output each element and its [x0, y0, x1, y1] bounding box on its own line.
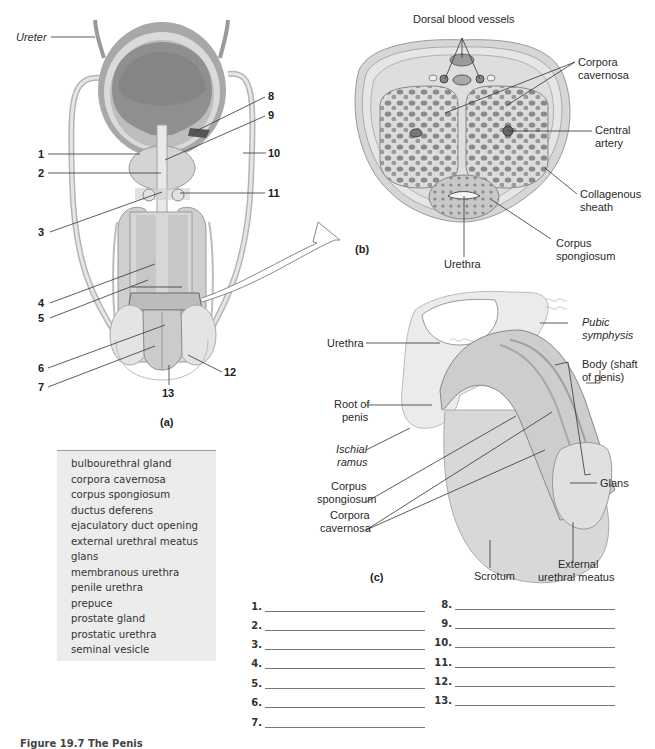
answer-field-11[interactable]: [455, 657, 615, 668]
word-bank-item: corpus spongiosum: [71, 487, 216, 503]
word-bank-item: membranous urethra: [71, 565, 216, 581]
answer-row-13[interactable]: 13.: [434, 692, 615, 706]
word-bank-item: prepuce: [71, 596, 216, 612]
word-bank-item: corpora cavernosa: [71, 472, 216, 488]
label-external-urethral-meatus-2: urethral meatus: [538, 571, 614, 584]
label-corpus-spongiosum-c-1: Corpus: [331, 480, 366, 493]
label-root-of-penis-1: Root of: [334, 398, 369, 411]
label-pubic-symphysis-1: Pubic: [582, 316, 610, 329]
label-corpora-cavernosa-c-2: cavernosa: [320, 522, 371, 535]
answer-field-9[interactable]: [455, 618, 615, 629]
answer-field-12[interactable]: [455, 676, 615, 687]
answer-row-10[interactable]: 10.: [434, 634, 615, 648]
answer-field-6[interactable]: [265, 697, 425, 708]
word-bank-item: external urethral meatus: [71, 534, 216, 550]
answer-row-3[interactable]: 3.: [244, 636, 425, 650]
word-bank-item: glans: [71, 549, 216, 565]
answer-row-4[interactable]: 4.: [244, 655, 425, 669]
label-scrotum: Scrotum: [474, 570, 515, 583]
label-external-urethral-meatus-1: External: [558, 558, 598, 571]
answer-field-5[interactable]: [265, 678, 425, 689]
label-pubic-symphysis-2: symphysis: [582, 329, 633, 342]
answer-row-9[interactable]: 9.: [434, 615, 615, 629]
answer-row-11[interactable]: 11.: [434, 654, 615, 668]
panel-c-tag: (c): [370, 571, 383, 583]
answer-field-7[interactable]: [265, 717, 425, 728]
word-bank-item: prostatic urethra: [71, 627, 216, 643]
word-bank-item: prostate gland: [71, 611, 216, 627]
word-bank-item: penile urethra: [71, 580, 216, 596]
label-corpora-cavernosa-c-1: Corpora: [330, 509, 370, 522]
answer-field-13[interactable]: [455, 695, 615, 706]
answer-row-6[interactable]: 6.: [244, 694, 425, 708]
word-bank: bulbourethral gland corpora cavernosa co…: [57, 450, 216, 661]
answer-row-8[interactable]: 8.: [434, 596, 615, 610]
answer-field-8[interactable]: [455, 599, 615, 610]
word-bank-item: ductus deferens: [71, 503, 216, 519]
answer-row-2[interactable]: 2.: [244, 617, 425, 631]
word-bank-item: ejaculatory duct opening: [71, 518, 216, 534]
answer-row-12[interactable]: 12.: [434, 673, 615, 687]
label-ischial-ramus-2: ramus: [337, 456, 368, 469]
answer-field-2[interactable]: [265, 620, 425, 631]
label-body-shaft-1: Body (shaft: [582, 358, 638, 371]
label-corpus-spongiosum-c-2: spongiosum: [317, 493, 376, 506]
word-bank-item: seminal vesicle: [71, 642, 216, 658]
word-bank-item: bulbourethral gland: [71, 456, 216, 472]
label-urethra-c: Urethra: [327, 337, 364, 350]
label-root-of-penis-2: penis: [342, 411, 368, 424]
answer-row-5[interactable]: 5.: [244, 675, 425, 689]
label-glans: Glans: [600, 477, 629, 490]
answer-field-3[interactable]: [265, 639, 425, 650]
answer-field-4[interactable]: [265, 658, 425, 669]
label-body-shaft-2: of penis): [582, 371, 624, 384]
figure-caption: Figure 19.7 The Penis: [20, 738, 143, 749]
label-ischial-ramus-1: Ischial: [336, 443, 367, 456]
answer-row-7[interactable]: 7.: [244, 714, 425, 728]
answer-field-10[interactable]: [455, 637, 615, 648]
answer-row-1[interactable]: 1.: [244, 598, 425, 612]
answer-field-1[interactable]: [265, 601, 425, 612]
